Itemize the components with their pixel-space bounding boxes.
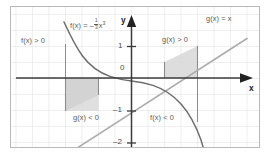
- y-tick-label-neg1: –1: [113, 105, 122, 114]
- annotation-f-positive: f(x) > 0: [21, 36, 45, 45]
- grid-lines: [11, 7, 259, 147]
- annotation-f-formula: f(x) = –13x3: [70, 18, 105, 30]
- x-axis-label: x: [249, 83, 254, 93]
- annotation-g-formula: g(x) = x: [206, 14, 232, 23]
- figure-container: f(x) = –13x3 g(x) = x f(x) > 0 g(x) > 0 …: [0, 0, 269, 154]
- y-axis-label: y: [121, 15, 126, 25]
- f-formula-prefix: f(x) = –: [70, 21, 94, 30]
- chart-canvas: [0, 0, 269, 154]
- annotation-g-negative: g(x) < 0: [73, 113, 99, 122]
- annotation-g-positive: g(x) > 0: [162, 35, 188, 44]
- annotation-f-negative: f(x) < 0: [150, 113, 174, 122]
- y-tick-label-0: 0: [120, 63, 124, 72]
- y-tick-label-neg2: –2: [113, 137, 122, 146]
- x-axis-arrowhead: [240, 73, 253, 83]
- y-axis-arrowhead: [127, 15, 136, 27]
- y-tick-label-1: 1: [118, 41, 122, 50]
- f-formula-exponent: 3: [102, 20, 105, 26]
